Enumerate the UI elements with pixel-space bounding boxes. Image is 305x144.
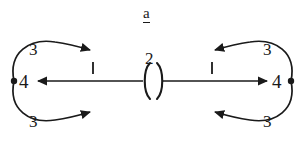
center-left-bracket-icon [145,63,150,99]
center-right-bracket-icon [157,63,162,99]
edge-weight-top-left: 3 [29,41,38,58]
edge-weight-bottom-right: 3 [263,113,272,130]
node-right-label: 4 [272,72,282,91]
node-left-label: 4 [19,72,29,91]
figure-title: a [143,6,150,23]
diagram-canvas: a 3 3 3 3 4 4 2 [0,0,305,144]
edge-weight-top-right: 3 [263,41,272,58]
edge-weight-bottom-left: 3 [29,113,38,130]
center-weight-label: 2 [145,50,154,67]
graph-diagram [0,0,305,144]
